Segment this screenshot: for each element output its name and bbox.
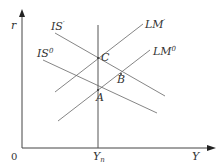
is-prime-curve: [55, 33, 165, 96]
x-axis-label: Y: [192, 150, 201, 163]
x-axis-arrow-icon: [207, 145, 216, 151]
is-prime-label-sup: ′: [63, 20, 65, 28]
yn-label-sub: n: [100, 156, 105, 164]
is-zero-label-main: IS: [36, 47, 49, 60]
lm-zero-label: LM0: [152, 45, 177, 58]
y-axis-arrow-icon: [19, 9, 25, 17]
point-b-label: B: [116, 73, 125, 86]
lm-prime-label: LM′: [144, 18, 166, 31]
is-zero-label: IS0: [36, 47, 54, 60]
is-prime-label: IS′: [50, 20, 65, 33]
lm-zero-label-main: LM: [152, 45, 172, 58]
lm-prime-label-sup: ′: [164, 18, 166, 26]
point-c-label: C: [101, 51, 110, 64]
lm-zero-label-sup: 0: [172, 45, 177, 53]
lm-prime-label-main: LM: [144, 18, 164, 31]
yn-label: Yn: [93, 150, 105, 164]
is-lm-diagram: r Y 0 Yn IS′ IS0 LM′ LM0 C B A: [0, 0, 218, 168]
point-a-label: A: [95, 91, 104, 104]
origin-label: 0: [11, 151, 17, 162]
is-zero-curve: [43, 60, 157, 113]
point-c-marker: [97, 57, 99, 59]
is-prime-label-main: IS: [50, 20, 63, 33]
is-zero-label-sup: 0: [49, 47, 54, 55]
y-axis-label: r: [11, 19, 17, 32]
